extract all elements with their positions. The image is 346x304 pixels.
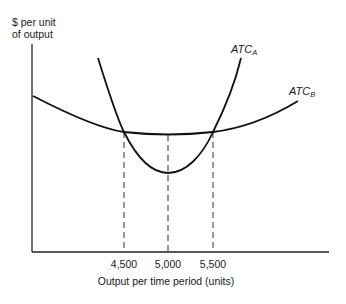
y-axis-label-line2: of output [12, 28, 53, 40]
x-tick-5000: 5,000 [155, 258, 181, 270]
y-axis-label-line1: $ per unit [12, 16, 56, 28]
x-axis-label: Output per time period (units) [98, 275, 235, 287]
x-tick-4500: 4,500 [111, 258, 137, 270]
x-tick-5500: 5,500 [200, 258, 226, 270]
atc-a-curve [98, 58, 241, 173]
atc-a-label: ATCA [230, 43, 257, 57]
atc-b-label: ATCB [288, 85, 315, 99]
atc-b-curve [33, 96, 298, 135]
cost-curve-chart: $ per unit of output ATCA ATCB 4,500 5,0… [0, 0, 346, 304]
